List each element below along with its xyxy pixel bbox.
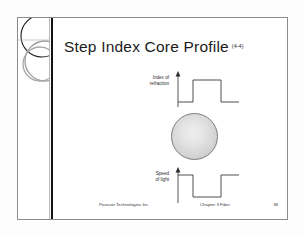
index-of-refraction-label-line2: refraction (135, 81, 169, 87)
slide-footer: Pearson Technologies Inc. Chapter 3 Fibe… (88, 202, 287, 211)
fiber-core-circle-icon (171, 113, 218, 160)
page-title-text: Step Index Core Profile (64, 38, 229, 55)
figure-reference: (4-4) (232, 43, 244, 49)
speed-of-light-label-line2: of light (135, 177, 169, 183)
step-up-pulse-waveform (171, 69, 251, 115)
footer-page-number: 38 (273, 202, 278, 207)
fiber-core-cross-section (171, 113, 220, 162)
index-of-refraction-label: Index of refraction (135, 75, 169, 87)
page-title: Step Index Core Profile(4-4) (64, 38, 243, 56)
step-index-core-diagram: Index of refraction (135, 69, 255, 206)
index-of-refraction-plot: Index of refraction (135, 69, 255, 111)
footer-company: Pearson Technologies Inc. (99, 202, 149, 207)
speed-of-light-label: Speed of light (135, 171, 169, 183)
footer-chapter: Chapter 3 Fiber (200, 202, 230, 207)
presentation-slide: Step Index Core Profile(4-4) Index of re… (17, 17, 288, 220)
speed-of-light-plot: Speed of light (135, 165, 255, 207)
scanned-page-background: Step Index Core Profile(4-4) Index of re… (0, 0, 304, 237)
slide-content: Step Index Core Profile(4-4) Index of re… (53, 18, 287, 219)
slide-divider-thin (49, 18, 50, 219)
logo-strip (18, 18, 50, 219)
